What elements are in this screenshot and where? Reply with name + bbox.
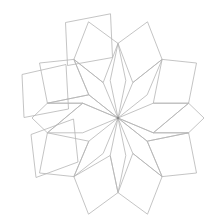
- inner-rhombus: [110, 118, 126, 193]
- inner-rhombus: [74, 118, 118, 177]
- outer-rhombus: [74, 156, 118, 215]
- inner-rhombus: [74, 59, 118, 118]
- outer-rhombus: [32, 103, 83, 133]
- outer-rhombus: [153, 103, 204, 133]
- rhombic-rosette-figure: [0, 0, 220, 218]
- detached-squares-group: [22, 14, 113, 178]
- inner-rhombus: [118, 103, 189, 133]
- figure-canvas: [0, 0, 220, 218]
- inner-rhombus: [118, 118, 162, 177]
- inner-rhombus: [118, 59, 162, 118]
- center-point: [117, 117, 119, 119]
- detached-square: [66, 14, 113, 66]
- inner-rhombus: [118, 118, 189, 141]
- inner-rhombus: [47, 103, 118, 133]
- outer-rhombus: [153, 59, 196, 103]
- detached-square: [31, 119, 78, 178]
- inner-rhombus: [47, 95, 118, 118]
- outer-rhombus: [40, 133, 89, 177]
